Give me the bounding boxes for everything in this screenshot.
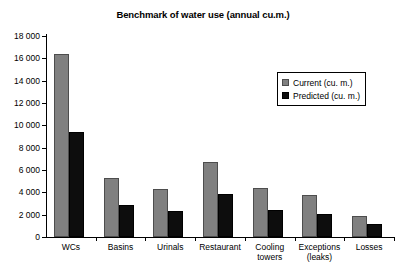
y-tick-label: 14 000 bbox=[14, 76, 40, 86]
bar-chart: Benchmark of water use (annual cu.m.) 18… bbox=[0, 0, 406, 278]
bar-group bbox=[295, 36, 345, 237]
y-tick-label: 10 000 bbox=[14, 120, 40, 130]
legend-item-predicted: Predicted (cu. m.) bbox=[282, 89, 360, 102]
x-axis-category-label: Urinals bbox=[145, 242, 195, 252]
x-axis-category-label: Losses bbox=[344, 242, 394, 252]
legend-item-current: Current (cu. m.) bbox=[282, 76, 360, 89]
y-tick-label: 12 000 bbox=[14, 98, 40, 108]
legend-label-predicted: Predicted (cu. m.) bbox=[293, 91, 360, 101]
x-axis-category-label: Restaurant bbox=[195, 242, 245, 252]
legend-swatch-current-icon bbox=[282, 79, 289, 86]
x-tick-mark bbox=[245, 237, 246, 241]
bar-group bbox=[145, 36, 195, 237]
y-tick-label: 4 000 bbox=[19, 187, 40, 197]
x-tick-mark bbox=[344, 237, 345, 241]
x-axis-category-label: WCs bbox=[46, 242, 96, 252]
x-axis-category-label: Basins bbox=[96, 242, 146, 252]
bar-current bbox=[104, 178, 119, 237]
bar-predicted bbox=[317, 214, 332, 237]
bar-group bbox=[344, 36, 394, 237]
plot-area bbox=[46, 36, 394, 237]
bar-current bbox=[153, 189, 168, 237]
x-tick-mark bbox=[96, 237, 97, 241]
y-tick-label: 16 000 bbox=[14, 53, 40, 63]
x-tick-mark bbox=[394, 237, 395, 241]
bar-predicted bbox=[168, 211, 183, 237]
legend-swatch-predicted-icon bbox=[282, 92, 289, 99]
bar-current bbox=[203, 162, 218, 237]
bar-group bbox=[96, 36, 146, 237]
y-tick-mark bbox=[42, 237, 46, 238]
x-tick-mark bbox=[295, 237, 296, 241]
bar-current bbox=[352, 216, 367, 237]
x-tick-mark bbox=[195, 237, 196, 241]
bar-predicted bbox=[69, 132, 84, 237]
y-tick-label: 6 000 bbox=[19, 165, 40, 175]
bar-group bbox=[195, 36, 245, 237]
bar-group bbox=[46, 36, 96, 237]
x-axis-category-label: Exceptions (leaks) bbox=[295, 242, 345, 262]
bar-current bbox=[302, 195, 317, 237]
legend-label-current: Current (cu. m.) bbox=[293, 78, 353, 88]
y-tick-label: 8 000 bbox=[19, 143, 40, 153]
bar-predicted bbox=[268, 210, 283, 237]
y-tick-label: 0 bbox=[35, 232, 40, 242]
chart-title: Benchmark of water use (annual cu.m.) bbox=[0, 9, 406, 20]
bar-group bbox=[245, 36, 295, 237]
x-tick-mark bbox=[145, 237, 146, 241]
x-axis-line bbox=[46, 237, 395, 238]
bar-predicted bbox=[119, 205, 134, 237]
bar-current bbox=[54, 54, 69, 237]
x-axis-category-label: Cooling towers bbox=[245, 242, 295, 262]
bar-predicted bbox=[218, 194, 233, 237]
legend: Current (cu. m.) Predicted (cu. m.) bbox=[277, 72, 366, 106]
y-tick-label: 2 000 bbox=[19, 210, 40, 220]
y-tick-label: 18 000 bbox=[14, 31, 40, 41]
bar-predicted bbox=[367, 224, 382, 237]
bar-current bbox=[253, 188, 268, 237]
